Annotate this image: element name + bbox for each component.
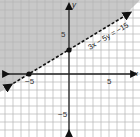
- axis-label-x: x: [133, 69, 139, 78]
- point-y-intercept: [66, 47, 71, 52]
- tick-label-x-5: 5: [107, 77, 112, 86]
- coordinate-plane: y x 5 −5 5 −5 3x − 5y = −15: [0, 0, 140, 137]
- tick-label-x-neg5: −5: [25, 77, 35, 86]
- tick-label-y-5: 5: [61, 30, 66, 39]
- point-x-intercept: [26, 71, 31, 76]
- tick-label-y-neg5: −5: [58, 110, 68, 119]
